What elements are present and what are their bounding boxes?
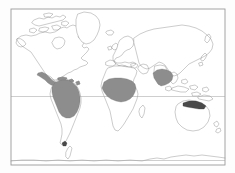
world-map-svg: [0, 0, 235, 173]
distribution-map-figure: [0, 0, 235, 173]
